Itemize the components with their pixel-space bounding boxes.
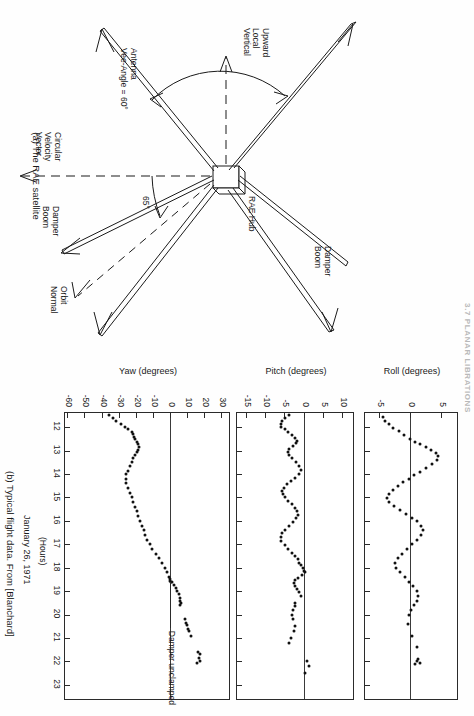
data-point bbox=[415, 599, 418, 602]
data-point bbox=[410, 516, 413, 519]
data-point bbox=[424, 466, 427, 469]
data-point bbox=[288, 454, 291, 457]
antenna-vee-angle-arc bbox=[150, 71, 288, 107]
chart-roll bbox=[364, 412, 458, 700]
flight-date-label: January 26, 1971 bbox=[22, 515, 32, 585]
x-tick bbox=[65, 638, 70, 639]
annotation-damper-unclamped: Damper unclamped bbox=[167, 631, 177, 705]
data-point bbox=[140, 524, 143, 527]
data-point bbox=[306, 660, 309, 663]
data-point bbox=[391, 488, 394, 491]
figure-a-caption: (a) The RAE satellite bbox=[31, 0, 42, 352]
data-point bbox=[294, 476, 297, 479]
data-point bbox=[284, 417, 287, 420]
x-tick bbox=[365, 544, 370, 545]
data-point bbox=[151, 547, 154, 550]
data-point bbox=[405, 512, 408, 515]
label-orbit-normal: Orbit Normal bbox=[49, 286, 68, 313]
data-point bbox=[396, 557, 399, 560]
x-tick bbox=[237, 591, 242, 592]
data-point bbox=[284, 496, 287, 499]
data-point bbox=[299, 468, 302, 471]
data-point bbox=[283, 543, 286, 546]
data-point bbox=[387, 501, 390, 504]
x-tick bbox=[237, 661, 242, 662]
x-tick bbox=[65, 427, 70, 428]
data-point bbox=[403, 576, 406, 579]
data-point bbox=[292, 521, 295, 524]
data-point bbox=[287, 431, 290, 434]
y-tick-label: 0 bbox=[407, 381, 417, 407]
y-tick-label: -10 bbox=[262, 381, 272, 407]
x-tick bbox=[365, 638, 370, 639]
data-point bbox=[163, 566, 166, 569]
data-point bbox=[287, 547, 290, 550]
y-tick-label: -30 bbox=[116, 381, 126, 407]
book-page: 3.7 PLANAR LIBRATIONS bbox=[0, 0, 474, 716]
x-tick bbox=[237, 474, 242, 475]
figure-a-rae-satellite: RAE Hub Damper Boom Damper Boom Upward L… bbox=[0, 0, 452, 352]
data-point bbox=[146, 538, 149, 541]
data-point bbox=[288, 414, 291, 417]
data-point bbox=[296, 513, 299, 516]
data-point bbox=[134, 505, 137, 508]
data-point bbox=[408, 437, 411, 440]
data-point bbox=[144, 533, 147, 536]
chart-yaw: Damper unclamped bbox=[64, 412, 230, 700]
annotation-leader-line bbox=[170, 582, 171, 628]
data-point bbox=[292, 618, 295, 621]
y-tick bbox=[246, 413, 247, 418]
data-point bbox=[414, 662, 417, 665]
chart-pitch bbox=[236, 412, 354, 700]
y-tick bbox=[136, 413, 137, 418]
data-point bbox=[437, 455, 440, 458]
data-point bbox=[418, 661, 421, 664]
data-point bbox=[135, 510, 138, 513]
y-tick bbox=[410, 413, 411, 418]
x-tick bbox=[365, 661, 370, 662]
x-tick-label: 22 bbox=[52, 651, 62, 669]
figure-b-caption: (b) Typical flight data. From [Blanchard… bbox=[5, 471, 16, 637]
y-tick bbox=[379, 413, 380, 418]
y-tick-label: -20 bbox=[133, 381, 143, 407]
x-tick bbox=[365, 451, 370, 452]
y-tick-label: 10 bbox=[339, 381, 349, 407]
x-tick bbox=[65, 685, 70, 686]
data-point bbox=[139, 519, 142, 522]
x-tick bbox=[65, 521, 70, 522]
x-tick bbox=[237, 451, 242, 452]
data-point bbox=[148, 543, 151, 546]
y-tick-label: 20 bbox=[201, 381, 211, 407]
x-tick-label: 15 bbox=[52, 487, 62, 505]
data-point bbox=[295, 517, 298, 520]
data-point bbox=[407, 477, 410, 480]
data-point bbox=[188, 630, 191, 633]
x-tick bbox=[365, 591, 370, 592]
data-point bbox=[400, 552, 403, 555]
x-tick bbox=[365, 615, 370, 616]
data-point bbox=[120, 422, 123, 425]
data-point bbox=[283, 428, 286, 431]
label-antenna-vee-angle: Antenna Vee-Angle = 60° bbox=[119, 48, 138, 110]
data-point bbox=[419, 533, 422, 536]
data-point bbox=[295, 442, 298, 445]
label-angle-65: 65° bbox=[140, 196, 150, 209]
data-point bbox=[289, 479, 292, 482]
data-point bbox=[387, 423, 390, 426]
y-tick-label: 0 bbox=[301, 381, 311, 407]
data-point bbox=[292, 445, 295, 448]
data-point bbox=[430, 449, 433, 452]
x-tick bbox=[65, 544, 70, 545]
x-tick bbox=[65, 661, 70, 662]
data-point bbox=[304, 672, 307, 675]
x-tick bbox=[65, 615, 70, 616]
y-tick-label: -40 bbox=[99, 381, 109, 407]
data-point bbox=[434, 451, 437, 454]
x-tick bbox=[237, 544, 242, 545]
data-point bbox=[179, 604, 182, 607]
data-point bbox=[132, 457, 135, 460]
y-tick-label: -15 bbox=[243, 381, 253, 407]
y-tick bbox=[67, 413, 68, 418]
data-point bbox=[300, 594, 303, 597]
data-point bbox=[418, 470, 421, 473]
